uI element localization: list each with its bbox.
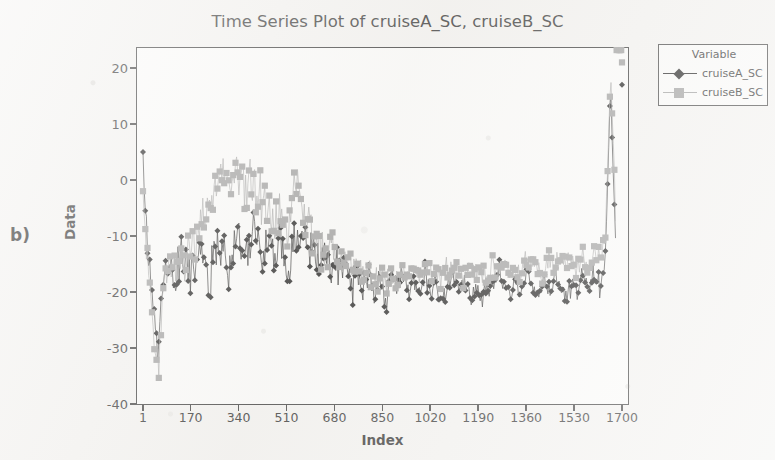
- data-point: [596, 269, 602, 275]
- data-point: [262, 183, 268, 189]
- x-tick-mark: [286, 405, 288, 411]
- data-point: [587, 265, 593, 271]
- data-point: [381, 272, 387, 278]
- data-point: [390, 276, 396, 282]
- data-point: [359, 288, 365, 294]
- data-point: [429, 278, 435, 284]
- data-point: [388, 265, 394, 271]
- data-point: [158, 332, 164, 338]
- data-point: [149, 309, 155, 315]
- data-point: [605, 168, 611, 174]
- data-point: [348, 285, 354, 291]
- data-point: [602, 235, 608, 241]
- x-tick-mark: [525, 405, 527, 411]
- data-point: [257, 167, 263, 173]
- data-point: [451, 265, 457, 271]
- legend-label: cruiseB_SC: [702, 86, 763, 99]
- data-point: [327, 274, 333, 280]
- legend-title: Variable: [659, 48, 769, 61]
- data-point: [316, 233, 322, 239]
- x-tick-label: 850: [370, 410, 394, 425]
- x-tick-mark: [334, 405, 336, 411]
- x-tick-mark: [477, 405, 479, 411]
- data-point: [550, 270, 556, 276]
- data-point: [553, 264, 559, 270]
- data-point: [147, 280, 153, 286]
- x-tick-label: 510: [275, 410, 299, 425]
- data-point: [275, 230, 281, 236]
- data-point: [598, 254, 604, 260]
- data-point: [609, 135, 615, 141]
- data-point: [370, 273, 376, 279]
- data-point: [526, 264, 532, 270]
- series-cruiseB_SC: [140, 47, 625, 381]
- data-point: [307, 264, 313, 270]
- data-point: [573, 275, 579, 281]
- x-tick-label: 1700: [606, 410, 638, 425]
- data-point: [253, 209, 259, 215]
- data-point: [517, 279, 523, 285]
- x-tick-mark: [621, 405, 623, 411]
- diamond-marker-icon: [663, 68, 697, 80]
- data-point: [438, 286, 444, 292]
- data-point: [284, 243, 290, 249]
- data-point: [605, 181, 611, 187]
- data-point: [169, 264, 175, 270]
- data-point: [474, 277, 480, 283]
- data-point: [226, 286, 232, 292]
- data-point: [424, 290, 430, 296]
- square-marker-icon: [663, 87, 697, 99]
- data-point: [181, 252, 187, 258]
- data-point: [183, 267, 189, 273]
- data-point: [354, 261, 360, 267]
- data-point: [201, 224, 207, 230]
- data-point: [302, 232, 308, 238]
- data-point: [192, 256, 198, 262]
- data-point: [325, 264, 331, 270]
- data-point: [203, 262, 209, 268]
- x-tick-mark: [573, 405, 575, 411]
- series-canvas: [136, 47, 629, 405]
- data-point: [609, 110, 615, 116]
- y-axis-title: Data: [62, 204, 78, 240]
- data-point: [241, 253, 247, 259]
- x-tick-mark: [382, 405, 384, 411]
- data-point: [399, 262, 405, 268]
- data-point: [384, 290, 390, 296]
- data-point: [580, 244, 586, 250]
- data-point: [160, 285, 166, 291]
- x-tick-label: 1: [139, 410, 147, 425]
- data-point: [548, 255, 554, 261]
- data-point: [332, 244, 338, 250]
- data-point: [424, 269, 430, 275]
- data-point: [429, 296, 435, 302]
- data-point: [257, 249, 263, 255]
- y-tick-label: -20: [107, 285, 128, 300]
- data-point: [512, 267, 518, 273]
- data-point: [384, 309, 390, 315]
- data-point: [250, 171, 256, 177]
- data-point: [539, 281, 545, 287]
- data-point: [140, 149, 146, 155]
- data-point: [291, 169, 297, 175]
- data-point: [611, 167, 617, 173]
- x-tick-label: 1360: [510, 410, 542, 425]
- data-point: [264, 218, 270, 224]
- data-point: [140, 188, 146, 194]
- y-tick-label: -40: [107, 397, 128, 412]
- data-point: [253, 238, 259, 244]
- data-point: [210, 259, 216, 265]
- x-tick-mark: [429, 405, 431, 411]
- data-point: [153, 357, 159, 363]
- data-point: [456, 273, 462, 279]
- series-line: [143, 83, 616, 378]
- data-point: [481, 263, 487, 269]
- data-point: [235, 224, 241, 230]
- data-point: [379, 265, 385, 271]
- data-point: [490, 252, 496, 258]
- x-tick-label: 680: [322, 410, 346, 425]
- data-point: [550, 278, 556, 284]
- data-point: [172, 253, 178, 259]
- data-point: [600, 270, 606, 276]
- data-point: [532, 259, 538, 265]
